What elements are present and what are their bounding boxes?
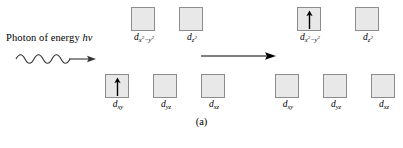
wavy-photon-arrow-icon xyxy=(14,48,104,70)
orbital-box[interactable] xyxy=(153,74,177,98)
orbital-label-dyz: dyz xyxy=(161,100,171,110)
orbital-box[interactable] xyxy=(201,74,225,98)
orbital-label-dz2: dz2 xyxy=(363,33,373,43)
orbital-label-dxz: dxz xyxy=(209,100,219,110)
orbital-left-dx2y2[interactable]: dx2−y2 xyxy=(131,7,157,31)
orbital-box[interactable] xyxy=(323,74,347,98)
orbital-label-dz2: dz2 xyxy=(187,33,197,43)
orbital-left-dxz[interactable]: dxz xyxy=(201,74,227,98)
photon-energy-symbol: hv xyxy=(82,32,92,43)
orbital-left-dxy[interactable]: dxy xyxy=(105,74,131,98)
spin-up-arrow-icon xyxy=(113,77,122,97)
orbital-right-dxz[interactable]: dxz xyxy=(371,74,397,98)
orbital-label-dxz: dxz xyxy=(379,100,389,110)
reaction-right-arrow-icon xyxy=(200,48,278,64)
photon-energy-text: Photon of energy xyxy=(6,32,82,43)
photon-energy-label: Photon of energy hv xyxy=(6,32,93,43)
figure-caption: (a) xyxy=(0,116,403,127)
orbital-right-dx2y2[interactable]: dx2−y2 xyxy=(297,7,323,31)
orbital-right-dz2[interactable]: dz2 xyxy=(355,7,381,31)
orbital-box[interactable] xyxy=(131,7,155,31)
orbital-box[interactable] xyxy=(179,7,203,31)
orbital-left-dz2[interactable]: dz2 xyxy=(179,7,205,31)
orbital-label-dx2y2: dx2−y2 xyxy=(300,33,320,43)
orbital-box[interactable] xyxy=(371,74,395,98)
orbital-label-dyz: dyz xyxy=(331,100,341,110)
orbital-box[interactable] xyxy=(275,74,299,98)
orbital-label-dx2y2: dx2−y2 xyxy=(134,33,154,43)
orbital-label-dxy: dxy xyxy=(283,100,294,110)
orbital-box[interactable] xyxy=(105,74,129,98)
orbital-right-dxy[interactable]: dxy xyxy=(275,74,301,98)
orbital-right-dyz[interactable]: dyz xyxy=(323,74,349,98)
crystal-field-splitting-diagram: Photon of energy hv dx2−y2 dz2 dxy xyxy=(0,0,403,148)
orbital-left-dyz[interactable]: dyz xyxy=(153,74,179,98)
orbital-box[interactable] xyxy=(355,7,379,31)
orbital-label-dxy: dxy xyxy=(113,100,124,110)
orbital-box[interactable] xyxy=(297,7,321,31)
spin-up-arrow-icon xyxy=(305,10,314,30)
